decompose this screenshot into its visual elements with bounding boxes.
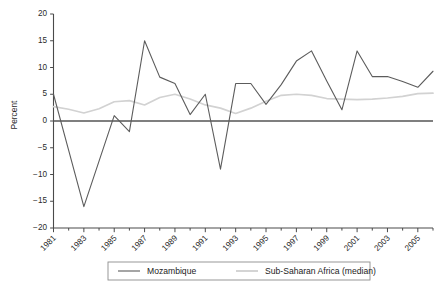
x-tick-label: 1995 [251,233,271,253]
y-tick-label: 0 [42,116,47,125]
y-tick-label: 10 [38,63,48,72]
x-tick-label: 1991 [190,233,210,253]
y-tick-label: −15 [33,196,47,205]
x-tick-label: 2001 [342,233,362,253]
x-tick-label: 1985 [99,233,119,253]
y-axis-tick-labels: 20151050−5−10−15−20 [33,9,47,232]
y-tick-label: 20 [38,9,48,18]
series-line-mozambique [54,41,434,207]
y-tick-label: −20 [33,223,47,232]
y-tick-label: 5 [42,89,47,98]
y-axis-title: Percent [9,100,19,130]
chart-container: 20151050−5−10−15−20 19811983198519871989… [0,0,445,292]
legend-label-sub-saharan-africa: Sub-Saharan Africa (median) [265,266,376,276]
series-line-sub-saharan-africa [54,93,434,113]
x-tick-label: 1983 [69,233,89,253]
y-tick-label: −5 [38,143,48,152]
x-tick-label: 2003 [373,233,393,253]
x-axis-minor-ticks [54,228,434,232]
legend-label-mozambique: Mozambique [147,266,196,276]
x-tick-label: 1997 [282,233,302,253]
line-chart: 20151050−5−10−15−20 19811983198519871989… [0,0,445,292]
y-tick-label: 15 [38,36,48,45]
x-tick-label: 1987 [130,233,150,253]
y-tick-label: −10 [33,170,47,179]
x-axis-tick-labels: 1981198319851987198919911993199519971999… [39,233,423,253]
x-tick-label: 1999 [312,233,332,253]
x-tick-label: 1981 [39,233,59,253]
x-tick-label: 1993 [221,233,241,253]
x-tick-label: 2005 [403,233,423,253]
chart-legend: Mozambique Sub-Saharan Africa (median) [108,262,376,280]
x-tick-label: 1989 [160,233,180,253]
